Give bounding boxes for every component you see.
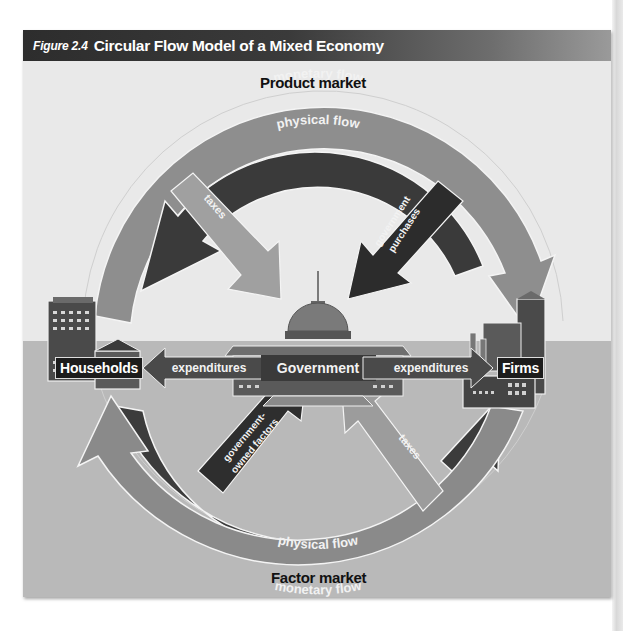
figure-title-bar: Figure 2.4 Circular Flow Model of a Mixe…: [23, 30, 611, 61]
product-market-label: Product market: [260, 74, 366, 91]
figure-panel: Figure 2.4 Circular Flow Model of a Mixe…: [23, 30, 611, 597]
diagram-canvas: monetary flow physical flow physical flo…: [23, 61, 611, 597]
households-label: Households: [55, 357, 143, 379]
government-label: Government: [277, 360, 360, 376]
figure-title: Circular Flow Model of a Mixed Economy: [94, 37, 384, 55]
circular-flow-diagram: monetary flow physical flow physical flo…: [23, 61, 611, 597]
page-edge: [612, 0, 623, 631]
figure-number: Figure 2.4: [33, 39, 88, 53]
expenditures-firms-label: expenditures: [394, 361, 469, 375]
expenditures-households-label: expenditures: [172, 361, 247, 375]
firms-label: Firms: [497, 357, 544, 379]
bottom-physical-flow-label: physical flow: [277, 532, 360, 552]
factor-market-label: Factor market: [271, 569, 366, 586]
firms-buildings: [463, 291, 545, 408]
